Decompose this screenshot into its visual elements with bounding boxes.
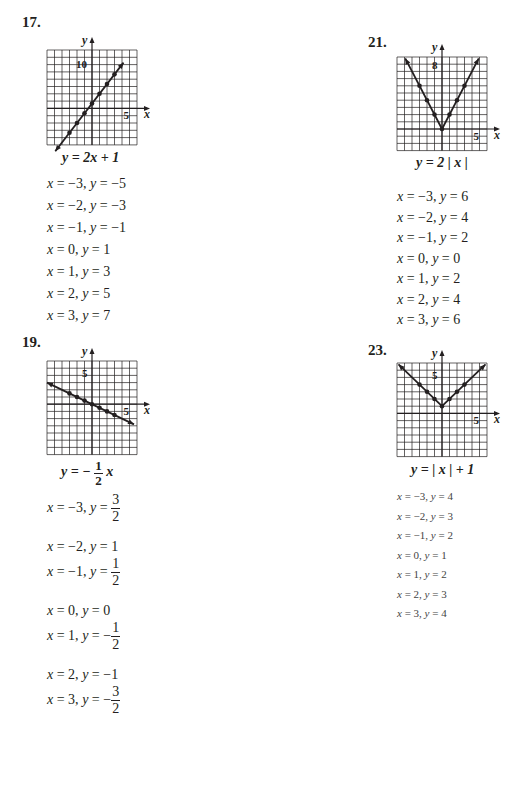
svg-text:y: y [80,33,88,47]
equals: = [88,308,103,323]
table-row: x = −2, y = 1 [47,539,118,555]
x-value: = 1, [53,264,82,279]
y-value: 1 [111,539,118,554]
x-value: = −1, [402,529,431,541]
y-value: 4 [453,292,460,307]
y-value: 4 [447,490,453,502]
y-value: 6 [453,312,460,327]
x-value: = 2, [403,292,432,307]
equals: = [88,264,103,279]
table-row: x = −3, y = 32 [47,493,120,524]
equation-21: y = 2 | x | [416,155,468,171]
data-point [447,112,452,117]
equals: = [438,271,453,286]
y-value: 2 [453,271,460,286]
svg-text:5: 5 [82,367,88,379]
equals: = [438,251,453,266]
equals: = [436,529,448,541]
data-point [105,82,110,87]
table-row: x = −1, y = 2 [397,529,453,541]
equals: = [446,210,461,225]
y-fraction: 12 [111,557,120,588]
table-row: x = 0, y = 1 [397,549,447,561]
numerator: 1 [111,621,120,637]
data-point [425,98,430,103]
svg-text:5: 5 [124,109,130,121]
table-row: x = −2, y = 4 [397,210,468,226]
x-value: = 1, [402,568,425,580]
y-value: −3 [111,198,126,213]
table-row: x = 3, y = 4 [397,607,447,619]
table-row: x = −3, y = 4 [397,490,453,502]
data-point [455,98,460,103]
data-point [432,397,437,402]
y-fraction: 12 [111,621,120,652]
table-row: x = 3, y = −32 [47,685,120,716]
x-value: = −3, [402,490,431,502]
y-value: 6 [461,189,468,204]
numerator: 3 [111,493,120,509]
y-value: 1 [103,242,110,257]
equals: = [88,692,103,707]
equation-23: y = | x | + 1 [411,462,474,478]
y-value: 4 [461,210,468,225]
data-point [455,390,460,395]
table-row: x = 2, y = 5 [47,286,110,302]
sign: − [103,628,111,643]
y-axis-arrow-icon [90,37,95,43]
denominator: 2 [111,573,120,588]
x-value: = 2, [402,588,425,600]
equals: = [96,198,111,213]
y-value: 1 [441,549,447,561]
equals: = [96,564,111,579]
equals: = [96,176,111,191]
svg-text:x: x [493,128,500,142]
svg-text:10: 10 [76,58,88,70]
x-value: = −3, [403,189,440,204]
svg-text:5: 5 [432,369,438,381]
equals: = [430,607,442,619]
equals: = [88,667,103,682]
y-value: 2 [441,568,447,580]
svg-text:8: 8 [432,59,438,71]
numerator: 3 [111,685,120,701]
problem-number-23: 23. [368,342,387,359]
table-row: x = 3, y = 6 [397,312,460,328]
data-point [67,130,72,135]
equation-19-fraction: 12 [94,459,103,487]
equation-19-numerator: 1 [94,459,103,474]
y-value: 7 [103,308,110,323]
x-value: = −2, [403,210,440,225]
x-value: = 3, [403,312,432,327]
data-point [112,413,117,418]
equation-19-denominator: 2 [94,474,103,487]
graph-23: xy55 [390,343,505,463]
data-point [90,101,95,106]
equals: = [430,568,442,580]
equals: = [430,549,442,561]
y-value: 0 [453,251,460,266]
y-axis-arrow-icon [440,44,445,50]
data-point [112,72,117,77]
graph-19: xy55 [40,341,150,466]
equals: = [430,588,442,600]
x-value: = 3, [402,607,425,619]
x-value: = 3, [53,308,82,323]
table-row: x = −1, y = 2 [397,230,468,246]
svg-text:y: y [80,344,88,358]
table-row: x = −3, y = −5 [47,176,126,192]
data-point [432,112,437,117]
y-value: −1 [103,667,118,682]
problem-number-21: 21. [368,34,387,51]
data-point [97,406,102,411]
x-value: = 2, [53,667,82,682]
x-value: = −1, [403,230,440,245]
x-value: = −3, [53,500,90,515]
svg-text:5: 5 [474,414,480,426]
y-value: 2 [447,529,453,541]
table-row: x = −1, y = −1 [47,220,126,236]
y-value: −1 [111,220,126,235]
equation-19-suffix: x [106,464,113,479]
svg-text:x: x [143,107,150,121]
x-value: = 0, [402,549,425,561]
